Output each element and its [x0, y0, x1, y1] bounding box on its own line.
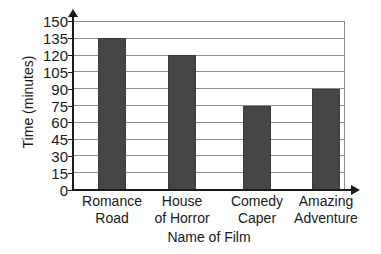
x-tick-label-line: Adventure	[278, 210, 374, 227]
y-axis-line	[72, 16, 74, 191]
y-tick-label-30: 30	[0, 149, 72, 164]
y-tick-label-135: 135	[0, 30, 72, 45]
x-axis-title: Name of Film	[73, 229, 345, 245]
y-tick-label-75: 75	[0, 98, 72, 113]
plot-area	[73, 21, 345, 190]
x-axis-line	[73, 189, 352, 191]
y-tick-label-0: 0	[0, 183, 72, 198]
x-tick-label-line: Amazing	[278, 193, 374, 210]
y-tick-label-150: 150	[0, 14, 72, 29]
y-tick-labels: 150 135 120 105 90 75 60 45 30 15 0	[0, 0, 72, 254]
bar-chart-figure: Time (minutes) 150 135 120 105 90	[0, 0, 381, 254]
gridline	[73, 21, 345, 22]
y-tick-label-120: 120	[0, 47, 72, 62]
bar-amazing-adventure	[312, 89, 340, 190]
bar-comedy-caper	[243, 106, 271, 191]
y-tick-label-45: 45	[0, 132, 72, 147]
x-tick-label-amazing-adventure: Amazing Adventure	[278, 193, 374, 227]
bar-romance-road	[98, 38, 126, 190]
y-tick-label-15: 15	[0, 166, 72, 181]
y-tick-label-90: 90	[0, 81, 72, 96]
bar-house-of-horror	[168, 55, 196, 190]
y-tick-label-105: 105	[0, 64, 72, 79]
y-tick-label-60: 60	[0, 115, 72, 130]
